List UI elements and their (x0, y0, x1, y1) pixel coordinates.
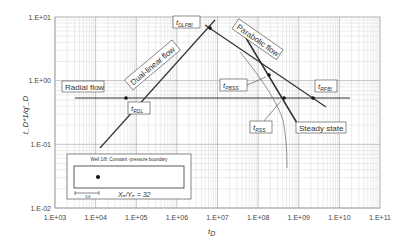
point-t-rpbi (311, 96, 315, 100)
t-rdl-label: tRDL (128, 102, 150, 114)
svg-text:Radial flow: Radial flow (65, 83, 104, 92)
point-t-rdl (124, 96, 128, 100)
x-tick-label: 1.E+04 (84, 214, 106, 221)
point-t-rss (282, 96, 286, 100)
x-tick-label: 1.E+09 (288, 214, 310, 221)
x-tick-label: 1.E+06 (166, 214, 188, 221)
point-t-pbss (267, 73, 271, 77)
reservoir-boundary (74, 166, 184, 188)
x-tick-label: 1.E+05 (125, 214, 147, 221)
inset-well-diagram: Well 1/8: Constant -pressure boundary 1/… (67, 154, 191, 199)
well-point (96, 175, 100, 179)
x-axis-label: tD (208, 227, 215, 237)
y-axis-label: t_D*1/q'_D (21, 96, 30, 135)
x-tick-label: 1.E+10 (328, 214, 350, 221)
t-rpbi-label: tRPBI (315, 80, 337, 92)
x-tick-label: 1.E+11 (369, 214, 391, 221)
y-tick-label: 1.E-02 (30, 205, 51, 212)
t-dlpbi-label: tDLPBI (173, 16, 200, 28)
svg-text:Steady state: Steady state (299, 124, 344, 133)
y-tick-label: 1.E-01 (30, 141, 51, 148)
x-tick-label: 1.E+08 (247, 214, 269, 221)
chart: 1.E+031.E+041.E+051.E+061.E+071.E+081.E+… (0, 0, 402, 249)
svg-text:1/4: 1/4 (85, 194, 91, 199)
svg-text:Xₑ/Yₑ = 32: Xₑ/Yₑ = 32 (117, 191, 151, 198)
y-tick-label: 1.E+01 (29, 14, 51, 21)
point-t-dlpbi (208, 26, 212, 30)
svg-text:Well 1/8: Constant -pressure b: Well 1/8: Constant -pressure boundary (91, 157, 169, 162)
y-tick-label: 1.E+00 (29, 77, 51, 84)
x-tick-label: 1.E+03 (44, 214, 66, 221)
steady-state-label: Steady state (296, 122, 346, 133)
x-tick-label: 1.E+07 (206, 214, 228, 221)
radial-flow-label: Radial flow (62, 81, 104, 92)
